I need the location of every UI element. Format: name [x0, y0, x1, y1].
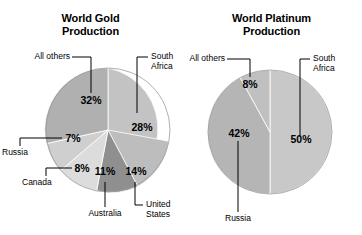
value-all-others-gold: 32%: [71, 95, 111, 106]
value-all-others-platinum: 8%: [235, 79, 265, 90]
value-russia-platinum: 42%: [220, 128, 258, 139]
label-russia-gold: Russia: [2, 148, 44, 158]
value-south-africa-platinum: 50%: [282, 134, 320, 145]
value-south-africa-gold: 28%: [122, 122, 162, 133]
label-australia-gold: Australia: [78, 209, 132, 219]
value-australia-gold: 11%: [88, 166, 122, 177]
chart-world-platinum-production: World Platinum Production All others Sou…: [181, 0, 362, 235]
label-all-others-gold: All others: [6, 52, 70, 62]
chart-world-gold-production: World Gold Production Al: [0, 0, 181, 235]
label-all-others-platinum: All others: [181, 54, 225, 64]
label-canada-gold: Canada: [22, 178, 68, 188]
value-united-states-gold: 14%: [119, 166, 153, 177]
value-russia-gold: 7%: [58, 133, 88, 144]
pie-slice-south-africa: [270, 70, 332, 194]
label-united-states-gold: United States: [146, 200, 182, 219]
label-south-africa-platinum: South Africa: [313, 54, 351, 73]
pie-platinum-svg: [181, 0, 362, 235]
label-south-africa-gold: South Africa: [151, 52, 185, 71]
figure-container: World Gold Production Al: [0, 0, 362, 235]
label-russia-platinum: Russia: [214, 214, 262, 224]
